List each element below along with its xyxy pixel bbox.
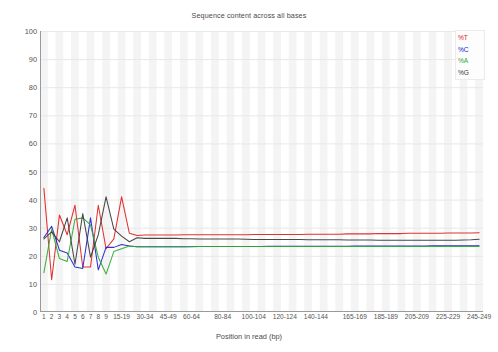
y-tick-label: 40 xyxy=(3,195,37,204)
x-tick-label: 5 xyxy=(73,313,77,320)
x-tick-label: 120-124 xyxy=(273,313,297,320)
y-tick-label: 50 xyxy=(3,167,37,176)
y-tick-label: 80 xyxy=(3,83,37,92)
y-tick-label: 90 xyxy=(3,55,37,64)
y-tick-label: 70 xyxy=(3,111,37,120)
legend-entry-g: %G xyxy=(458,67,484,79)
chart-figure: Sequence content across all bases 100908… xyxy=(0,0,498,352)
x-tick-label: 1 xyxy=(42,313,46,320)
x-tick-label: 245-249 xyxy=(467,313,491,320)
legend: %T%C%A%G xyxy=(455,30,485,80)
x-tick-label: 6 xyxy=(81,313,85,320)
x-tick-label: 165-169 xyxy=(343,313,367,320)
x-tick-label: 100-104 xyxy=(242,313,266,320)
x-axis-tick-labels: 12345678915-1930-3445-4960-6480-84100-10… xyxy=(40,313,483,327)
x-tick-label: 225-229 xyxy=(436,313,460,320)
x-tick-label: 3 xyxy=(58,313,62,320)
x-tick-label: 60-64 xyxy=(183,313,200,320)
x-tick-label: 185-189 xyxy=(374,313,398,320)
y-tick-label: 20 xyxy=(3,251,37,260)
y-tick-label: 60 xyxy=(3,139,37,148)
x-tick-label: 30-34 xyxy=(136,313,153,320)
x-tick-label: 80-84 xyxy=(214,313,231,320)
y-tick-label: 100 xyxy=(3,27,37,36)
legend-entry-a: %A xyxy=(458,55,484,67)
y-tick-label: 30 xyxy=(3,223,37,232)
x-tick-label: 4 xyxy=(65,313,69,320)
y-tick-label: 0 xyxy=(3,308,37,317)
x-tick-label: 15-19 xyxy=(113,313,130,320)
plot-frame xyxy=(40,31,483,312)
legend-entry-c: %C xyxy=(458,44,484,56)
x-tick-label: 140-144 xyxy=(304,313,328,320)
legend-entry-t: %T xyxy=(458,32,484,44)
x-tick-label: 2 xyxy=(50,313,54,320)
x-tick-label: 8 xyxy=(96,313,100,320)
plot-area xyxy=(40,31,483,312)
y-tick-label: 10 xyxy=(3,279,37,288)
x-tick-label: 45-49 xyxy=(160,313,177,320)
x-tick-label: 9 xyxy=(104,313,108,320)
chart-title: Sequence content across all bases xyxy=(0,11,498,20)
x-tick-label: 7 xyxy=(89,313,93,320)
x-axis-title: Position in read (bp) xyxy=(0,332,498,341)
y-axis-tick-labels: 1009080706050403020100 xyxy=(0,31,37,312)
x-tick-label: 205-209 xyxy=(405,313,429,320)
